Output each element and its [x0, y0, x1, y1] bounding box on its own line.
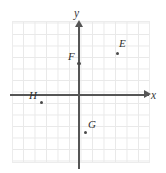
point-label-g: G	[88, 119, 96, 130]
x-axis-label: x	[151, 90, 156, 102]
point-label-h: H	[29, 90, 37, 101]
y-axis-label: y	[74, 8, 79, 20]
point-dot-e	[116, 52, 119, 55]
x-axis-arrow-icon	[144, 90, 151, 98]
point-label-e: E	[119, 38, 126, 49]
y-axis-arrow-icon	[75, 20, 83, 27]
coordinate-plane-figure: x y E F G H	[0, 0, 166, 173]
y-axis-line	[78, 22, 80, 169]
point-dot-f	[77, 62, 80, 65]
point-label-f: F	[68, 51, 75, 62]
